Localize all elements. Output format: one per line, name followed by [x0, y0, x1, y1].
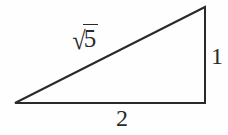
triangle-outline [15, 7, 205, 103]
vertical-leg-label: 1 [211, 44, 223, 68]
radicand-value: 5 [83, 24, 98, 51]
radical-group: √5 [72, 25, 98, 53]
horizontal-leg-label: 2 [116, 106, 128, 130]
triangle-figure: √5 1 2 [0, 0, 228, 135]
hypotenuse-label: √5 [72, 25, 98, 53]
triangle-drawing [0, 0, 228, 135]
